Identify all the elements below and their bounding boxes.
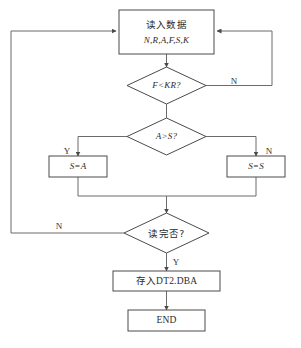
node-save-file-label: 存入DT2.DBA bbox=[136, 275, 198, 286]
node-s-eq-s-label: S=S bbox=[248, 161, 264, 171]
node-read-data-line1: 读入数据 bbox=[146, 19, 188, 30]
connector-fkr-no-loop bbox=[206, 31, 272, 86]
node-f-lt-kr[interactable]: F<KR? bbox=[127, 67, 206, 104]
node-read-data-line2: N,R,A,F,S,K bbox=[143, 35, 190, 45]
connector-ags-no-to-ss bbox=[206, 137, 256, 157]
connector-ss-to-merge bbox=[167, 177, 257, 196]
node-read-data-shape bbox=[119, 10, 214, 54]
branch-label-fkr-no: N bbox=[231, 76, 238, 86]
node-s-eq-a-label: S=A bbox=[70, 161, 87, 171]
flowchart-diagram: 读入数据 N,R,A,F,S,K F<KR? A>S? S=A S=S 读完否? bbox=[0, 0, 301, 348]
connector-sa-to-merge bbox=[78, 177, 167, 196]
flowchart-canvas: 读入数据 N,R,A,F,S,K F<KR? A>S? S=A S=S 读完否? bbox=[0, 0, 301, 348]
node-read-done-label: 读完否? bbox=[148, 228, 185, 239]
node-f-lt-kr-label: F<KR? bbox=[151, 80, 181, 90]
node-read-done[interactable]: 读完否? bbox=[124, 213, 209, 253]
connector-readdone-no-loop bbox=[11, 31, 124, 233]
node-a-gt-s-label: A>S? bbox=[155, 131, 178, 141]
branch-label-ags-yes: Y bbox=[64, 146, 71, 156]
node-s-eq-s[interactable]: S=S bbox=[227, 156, 285, 177]
node-end[interactable]: END bbox=[128, 310, 205, 331]
node-end-label: END bbox=[156, 315, 176, 325]
node-save-file[interactable]: 存入DT2.DBA bbox=[113, 271, 220, 291]
branch-label-ags-no: N bbox=[266, 146, 273, 156]
node-s-eq-a[interactable]: S=A bbox=[49, 156, 107, 177]
branch-label-readdone-no: N bbox=[56, 221, 63, 231]
node-read-data[interactable]: 读入数据 N,R,A,F,S,K bbox=[119, 10, 214, 54]
connector-ags-yes-to-sa bbox=[78, 137, 127, 157]
branch-label-readdone-yes: Y bbox=[173, 257, 180, 267]
node-a-gt-s[interactable]: A>S? bbox=[127, 118, 206, 155]
